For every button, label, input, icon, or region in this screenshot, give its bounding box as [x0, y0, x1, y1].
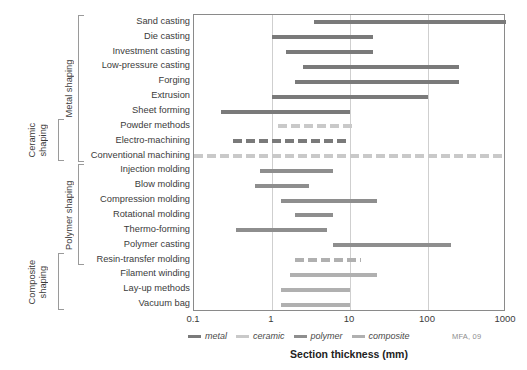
bar-investment-casting	[286, 50, 374, 54]
x-tick-label: 1	[268, 313, 273, 324]
bar-polymer-casting	[333, 243, 452, 247]
process-label: Compression molding	[40, 194, 190, 204]
legend-swatch	[236, 335, 249, 338]
legend: metalceramicpolymercomposite	[188, 331, 410, 341]
legend-swatch	[352, 335, 365, 338]
legend-label: metal	[205, 331, 227, 341]
legend-item: metal	[188, 331, 227, 341]
gridline	[272, 15, 273, 310]
bar-low-pressure-casting	[303, 65, 459, 69]
credit-note: MFA, 09	[452, 332, 481, 341]
process-label: Resin-transfer molding	[40, 254, 190, 264]
bar-vacuum-bag	[281, 303, 350, 307]
process-label: Filament winding	[40, 268, 190, 278]
bar-sheet-forming	[221, 110, 350, 114]
process-label: Lay-up methods	[40, 283, 190, 293]
process-label: Polymer casting	[40, 239, 190, 249]
legend-label: composite	[369, 331, 410, 341]
x-axis-title: Section thickness (mm)	[193, 348, 505, 360]
process-label: Powder methods	[40, 120, 190, 130]
bar-injection-molding	[260, 169, 333, 173]
process-label: Blow molding	[40, 179, 190, 189]
bar-extrusion	[272, 95, 428, 99]
process-label: Investment casting	[40, 46, 190, 56]
legend-swatch	[294, 335, 307, 338]
x-tick-label: 0.1	[186, 313, 199, 324]
bar-sand-casting	[314, 20, 506, 24]
process-label: Extrusion	[40, 90, 190, 100]
legend-item: polymer	[294, 331, 343, 341]
process-label-column: Sand castingDie castingInvestment castin…	[35, 14, 190, 311]
process-label: Sand casting	[40, 16, 190, 26]
process-label: Die casting	[40, 31, 190, 41]
process-label: Injection molding	[40, 164, 190, 174]
legend-label: ceramic	[253, 331, 285, 341]
x-tick-label: 100	[419, 313, 435, 324]
bar-filament-winding	[290, 273, 377, 277]
chart-root: Metal shapingCeramic shapingPolymer shap…	[0, 0, 527, 370]
bar-electro-machining	[233, 139, 350, 143]
bar-lay-up-methods	[281, 288, 350, 292]
bar-resin-transfer-molding	[295, 258, 361, 262]
legend-label: polymer	[311, 331, 343, 341]
gridline	[428, 15, 429, 310]
process-label: Thermo-forming	[40, 224, 190, 234]
process-label: Vacuum bag	[40, 298, 190, 308]
x-tick-label: 10	[344, 313, 355, 324]
gridline	[350, 15, 351, 310]
process-label: Forging	[40, 75, 190, 85]
bar-powder-methods	[278, 124, 356, 128]
bar-conventional-machining	[194, 154, 502, 158]
legend-item: ceramic	[236, 331, 285, 341]
legend-item: composite	[352, 331, 410, 341]
bar-thermo-forming	[236, 228, 326, 232]
bar-rotational-molding	[295, 213, 332, 217]
bar-blow-molding	[255, 184, 310, 188]
process-label: Electro-machining	[40, 135, 190, 145]
process-label: Sheet forming	[40, 105, 190, 115]
bar-die-casting	[272, 35, 373, 39]
x-tick-label: 1000	[494, 313, 515, 324]
legend-swatch	[188, 335, 201, 338]
process-label: Conventional machining	[40, 150, 190, 160]
bar-compression-molding	[281, 199, 377, 203]
process-label: Low-pressure casting	[40, 60, 190, 70]
plot-area	[193, 14, 505, 311]
bar-forging	[295, 80, 459, 84]
process-label: Rotational molding	[40, 209, 190, 219]
